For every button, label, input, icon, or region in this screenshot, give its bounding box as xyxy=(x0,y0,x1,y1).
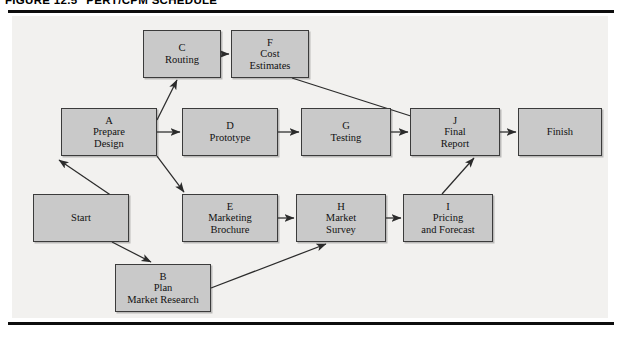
arrow-layer xyxy=(12,16,608,318)
node-i-label: IPricingand Forecast xyxy=(419,201,476,236)
node-e-label: EMarketingBrochure xyxy=(206,201,254,236)
node-a-line-1: Prepare xyxy=(93,126,125,138)
node-c[interactable]: CRouting xyxy=(143,30,221,78)
arrow-i-to-j xyxy=(442,158,474,194)
node-start-line-0: Start xyxy=(71,212,91,224)
node-i-line-1: Pricing xyxy=(421,212,474,224)
node-f-label: FCostEstimates xyxy=(248,37,293,72)
node-j-line-1: Final xyxy=(441,126,470,138)
node-h-label: HMarketSurvey xyxy=(324,201,358,236)
node-start[interactable]: Start xyxy=(33,194,129,242)
node-e[interactable]: EMarketingBrochure xyxy=(182,194,278,242)
arrow-a-to-c xyxy=(157,80,177,120)
node-h-line-1: Market xyxy=(326,212,356,224)
node-start-label: Start xyxy=(69,212,93,224)
node-c-label: CRouting xyxy=(163,42,201,65)
node-b-line-2: Market Research xyxy=(127,294,198,306)
node-i-line-0: I xyxy=(421,201,474,213)
node-j-label: JFinalReport xyxy=(439,115,472,150)
node-h-line-0: H xyxy=(326,201,356,213)
node-b-label: BPlanMarket Research xyxy=(125,271,200,306)
node-b-line-1: Plan xyxy=(127,282,198,294)
figure-panel: StartAPrepareDesignBPlanMarket ResearchC… xyxy=(12,16,608,318)
node-e-line-1: Marketing xyxy=(208,212,252,224)
arrow-b-to-h xyxy=(211,244,326,288)
node-h[interactable]: HMarketSurvey xyxy=(296,194,386,242)
node-f-line-0: F xyxy=(250,37,291,49)
horizontal-rule-top xyxy=(8,10,614,13)
node-g-label: GTesting xyxy=(329,120,364,143)
figure-caption-text: FIGURE 12.5PERT/CPM SCHEDULE xyxy=(5,0,217,6)
node-i[interactable]: IPricingand Forecast xyxy=(403,194,493,242)
node-finish-line-0: Finish xyxy=(547,126,573,138)
node-d-line-1: Prototype xyxy=(210,132,251,144)
node-a-line-2: Design xyxy=(93,138,125,150)
horizontal-rule-bottom xyxy=(8,322,614,325)
node-g-line-1: Testing xyxy=(331,132,362,144)
node-h-line-2: Survey xyxy=(326,224,356,236)
node-finish[interactable]: Finish xyxy=(518,108,602,156)
node-i-line-2: and Forecast xyxy=(421,224,474,236)
figure-caption: FIGURE 12.5PERT/CPM SCHEDULE xyxy=(0,0,622,9)
node-c-line-0: C xyxy=(165,42,199,54)
node-j-line-2: Report xyxy=(441,138,470,150)
node-a-line-0: A xyxy=(93,115,125,127)
edge-group xyxy=(59,54,516,288)
node-e-line-0: E xyxy=(208,201,252,213)
node-f-line-2: Estimates xyxy=(250,60,291,72)
node-g[interactable]: GTesting xyxy=(301,108,391,156)
node-j[interactable]: JFinalReport xyxy=(410,108,500,156)
node-j-line-0: J xyxy=(441,115,470,127)
node-e-line-2: Brochure xyxy=(208,224,252,236)
node-d-line-0: D xyxy=(210,120,251,132)
node-b[interactable]: BPlanMarket Research xyxy=(115,264,211,312)
figure-number: FIGURE 12.5 xyxy=(5,0,77,6)
node-g-line-0: G xyxy=(331,120,362,132)
figure-title: PERT/CPM SCHEDULE xyxy=(86,0,217,6)
node-f-line-1: Cost xyxy=(250,48,291,60)
node-a[interactable]: APrepareDesign xyxy=(61,108,157,156)
node-f[interactable]: FCostEstimates xyxy=(231,30,309,78)
node-finish-label: Finish xyxy=(545,126,575,138)
arrow-start-to-a xyxy=(59,160,112,196)
node-c-line-1: Routing xyxy=(165,54,199,66)
node-d[interactable]: DPrototype xyxy=(182,108,278,156)
node-b-line-0: B xyxy=(127,271,198,283)
node-a-label: APrepareDesign xyxy=(91,115,127,150)
arrow-a-to-e xyxy=(157,156,184,192)
node-d-label: DPrototype xyxy=(208,120,253,143)
arrow-start-to-b xyxy=(112,242,151,262)
